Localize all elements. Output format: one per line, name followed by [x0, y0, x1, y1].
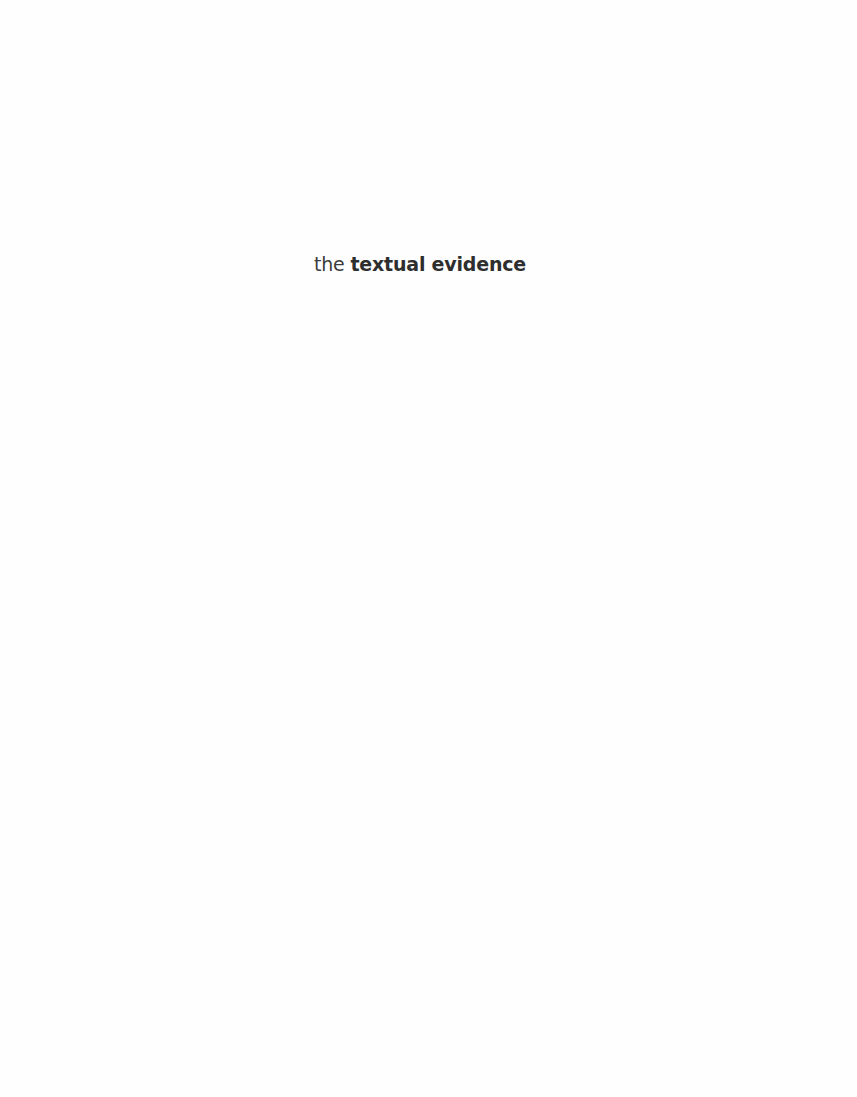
section-title: the textual evidence	[314, 251, 526, 277]
section-title-emphasis: textual evidence	[350, 253, 526, 275]
section-title-prefix: the	[314, 253, 345, 275]
document-page: the textual evidence	[0, 0, 857, 1097]
